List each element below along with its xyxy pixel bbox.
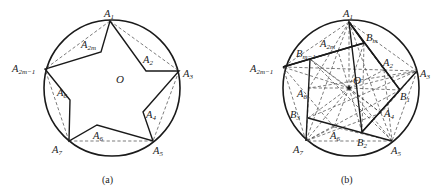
label-b-A4: A4	[383, 108, 394, 121]
label-b-B1: B1	[400, 91, 410, 104]
label-a-center-O: O	[116, 73, 124, 85]
label-b-A8: A8	[296, 88, 307, 101]
label-a-A2: A2	[142, 54, 153, 67]
figure-a: A1 A2 A3 A4 A5 A6 A7 A8 A2m A2m−1 O (a)	[11, 8, 193, 186]
label-a-A5: A5	[152, 145, 163, 158]
label-b-A2m-1: A2m−1	[249, 63, 273, 76]
label-b-A2m: A2m	[319, 38, 335, 51]
label-a-A8: A8	[56, 87, 67, 100]
caption-b: (b)	[341, 174, 353, 186]
label-a-A2m: A2m	[80, 39, 96, 52]
solid-edge-A5-B3	[308, 118, 392, 141]
label-b-center-O: O	[353, 74, 361, 86]
label-b-A3: A3	[419, 68, 430, 81]
label-b-A1: A1	[342, 8, 353, 21]
label-b-Bm-1: Bm−1	[296, 48, 316, 61]
label-b-Bm: Bm	[366, 32, 377, 45]
label-a-A7: A7	[51, 144, 62, 157]
label-a-A3: A3	[182, 68, 193, 81]
label-b-A7: A7	[292, 144, 303, 157]
circumcircle-a	[44, 20, 180, 156]
center-point-b	[347, 86, 351, 90]
label-a-A1: A1	[103, 8, 114, 21]
label-a-A4: A4	[145, 109, 156, 122]
label-a-A2m-1: A2m−1	[11, 63, 35, 76]
label-b-A5: A5	[390, 145, 401, 158]
label-b-B2: B2	[357, 137, 367, 150]
diagram-canvas: A1 A2 A3 A4 A5 A6 A7 A8 A2m A2m−1 O (a)	[0, 0, 436, 196]
figure-b: A1 A2 A3 A4 A5 A6 A7 A8 A2m A2m−1 B1 B2 …	[249, 8, 430, 186]
caption-a: (a)	[102, 174, 113, 186]
